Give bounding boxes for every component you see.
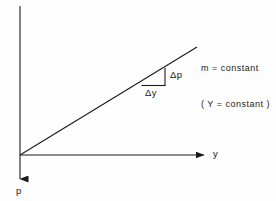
figure-canvas: m = constant ( Y = constant ) Δp Δy y p [0,0,276,201]
annotation-line-2: ( Y = constant ) [201,98,270,110]
p-axis-label: p [16,185,22,197]
y-axis-label: y [213,148,218,160]
delta-y-label: Δy [145,87,157,99]
annotation-line-1: m = constant [201,62,270,74]
line-annotation-label: m = constant ( Y = constant ) [201,38,270,134]
delta-p-label: Δp [170,69,182,81]
constant-slope-ray [20,47,197,155]
